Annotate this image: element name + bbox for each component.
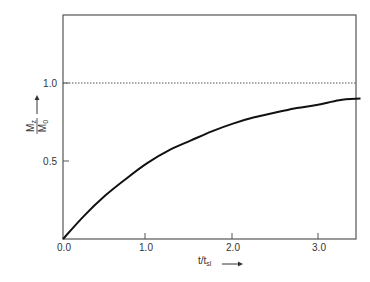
x-tick-label: 3.0 xyxy=(312,242,326,253)
y-tick-label: 0.5 xyxy=(43,156,57,167)
arrow-right-icon xyxy=(238,262,243,267)
plot-frame xyxy=(63,15,356,239)
arrow-up-icon xyxy=(35,95,40,100)
svg-text:Mz: Mz xyxy=(25,120,37,132)
x-tick-label: 1.0 xyxy=(139,242,153,253)
svg-text:M0: M0 xyxy=(37,120,49,132)
recovery-curve xyxy=(63,99,361,239)
x-axis-label: t/tsl xyxy=(198,255,243,267)
svg-text:t/tsl: t/tsl xyxy=(198,255,212,267)
y-tick-label: 1.0 xyxy=(43,78,57,89)
y-axis-label: Mz M0 xyxy=(25,95,49,134)
chart: 1.0 0.5 0.0 1.0 2.0 3.0 t/tsl Mz M0 xyxy=(0,0,370,282)
x-tick-label: 0.0 xyxy=(57,242,71,253)
x-tick-label: 2.0 xyxy=(226,242,240,253)
